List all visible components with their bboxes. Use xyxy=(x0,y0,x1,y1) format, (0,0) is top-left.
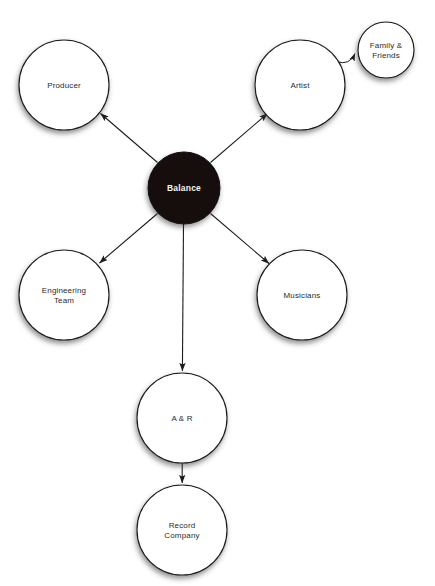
engineering-team-circle[interactable] xyxy=(19,250,109,340)
node-balance[interactable]: Balance xyxy=(148,152,220,224)
node-musicians[interactable]: Musicians xyxy=(257,250,347,340)
engineering-team-label-line1: Engineering xyxy=(42,286,86,295)
record-company-circle[interactable] xyxy=(137,485,227,575)
node-family-friends[interactable]: Family & Friends xyxy=(358,22,414,78)
record-company-label-line2: Company xyxy=(164,531,199,540)
node-a-and-r[interactable]: A & R xyxy=(137,373,227,463)
diagram-canvas: Producer Artist Family & Friends Enginee… xyxy=(0,0,435,586)
family-friends-label-line1: Family & xyxy=(370,41,403,50)
edge-balance-to-engineering-team xyxy=(100,214,158,264)
balance-label: Balance xyxy=(167,183,201,193)
node-artist[interactable]: Artist xyxy=(255,40,345,130)
node-engineering-team[interactable]: Engineering Team xyxy=(19,250,109,340)
edge-balance-to-musicians xyxy=(211,214,270,264)
musicians-label: Musicians xyxy=(284,291,321,300)
family-friends-label-line2: Friends xyxy=(372,51,400,60)
artist-label: Artist xyxy=(290,81,310,90)
node-producer[interactable]: Producer xyxy=(19,40,109,130)
edge-balance-to-artist xyxy=(211,114,268,163)
record-company-label-line1: Record xyxy=(169,521,196,530)
edge-artist-to-family-friends xyxy=(337,54,356,63)
family-friends-circle[interactable] xyxy=(358,22,414,78)
edge-balance-to-a-and-r xyxy=(182,224,183,371)
engineering-team-label-line2: Team xyxy=(54,296,74,305)
node-record-company[interactable]: Record Company xyxy=(137,485,227,575)
diagram-svg: Producer Artist Family & Friends Enginee… xyxy=(0,0,435,586)
producer-label: Producer xyxy=(47,81,81,90)
a-and-r-label: A & R xyxy=(171,414,192,423)
edge-balance-to-producer xyxy=(101,114,158,163)
